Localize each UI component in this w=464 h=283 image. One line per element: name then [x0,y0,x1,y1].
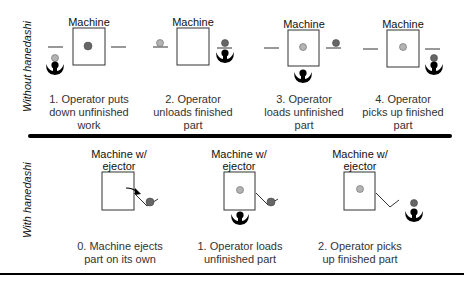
machine-label-line: ejector [204,160,274,172]
unfinished-part-icon [237,187,244,194]
caption-line: part on its own [70,253,170,266]
caption-line: 0. Machine ejects [70,240,170,253]
machine-label: Machine [59,16,119,28]
machine-label-line: ejector [325,160,395,172]
caption-line: 2. Operator picks [310,240,410,253]
operator-icon [425,61,443,75]
ejector-chute [134,193,147,206]
machine-label: Machine [274,18,334,30]
caption-line: part [259,119,349,132]
ejector-chute [256,193,268,205]
step-caption: 0. Machine ejects part on its own [70,240,170,266]
caption-line: unloads finished [148,106,238,119]
step-caption: 1. Operator puts down unfinished work [44,93,134,132]
step-with-1-graphic [224,172,278,225]
caption-line: down unfinished [44,106,134,119]
caption-line: 3. Operator [259,93,349,106]
step-without-1-graphic [46,28,126,75]
unfinished-part-icon [157,40,164,47]
caption-line: work [44,119,134,132]
machine-label: Machine [373,18,433,30]
step-caption: 4. Operator picks up finished part [358,93,448,132]
machine-label-line: ejector [84,160,154,172]
unfinished-part-icon [52,55,59,62]
caption-line: 1. Operator puts [44,93,134,106]
caption-line: loads unfinished [259,106,349,119]
caption-line: up finished part [310,253,410,266]
caption-line: unfinished part [190,253,290,266]
caption-line: part [148,119,238,132]
machine-label: Machine w/ ejector [84,148,154,172]
step-with-2-graphic [344,172,423,222]
operator-icon [46,61,64,75]
machine-label-line: Machine w/ [204,148,274,160]
unfinished-part-icon [357,186,364,193]
operator-icon [294,69,312,83]
machine-box [177,28,209,65]
step-caption: 1. Operator loads unfinished part [190,240,290,266]
step-without-4-graphic [363,30,443,75]
finished-part-icon [222,40,229,47]
finished-part-icon [267,198,275,206]
finished-part-icon [411,200,418,207]
unfinished-part-icon [400,44,407,51]
step-without-2-graphic [153,28,234,65]
step-with-0-graphic [102,172,158,210]
operator-icon [405,208,423,222]
machine-label-line: Machine w/ [325,148,395,160]
finished-part-icon [431,55,438,62]
machine-label: Machine w/ ejector [204,148,274,172]
finished-part-icon [333,40,340,47]
caption-line: 4. Operator [358,93,448,106]
unfinished-part-icon [300,44,307,51]
finished-part-icon [84,42,92,50]
finished-part-icon [146,198,154,206]
step-caption: 3. Operator loads unfinished part [259,93,349,132]
step-caption: 2. Operator picks up finished part [310,240,410,266]
caption-line: 2. Operator [148,93,238,106]
step-without-3-graphic [264,30,341,83]
ejector-chute [376,193,390,207]
operator-icon [216,49,234,63]
machine-label-line: Machine w/ [84,148,154,160]
machine-label: Machine w/ ejector [325,148,395,172]
caption-line: 1. Operator loads [190,240,290,253]
machine-box [102,172,134,210]
operator-icon [231,211,249,225]
machine-label: Machine [163,16,223,28]
step-caption: 2. Operator unloads finished part [148,93,238,132]
caption-line: picks up finished [358,106,448,119]
caption-line: part [358,119,448,132]
